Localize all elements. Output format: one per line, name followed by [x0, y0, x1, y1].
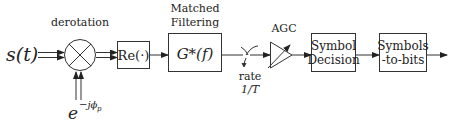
agc-title: AGC [270, 22, 296, 35]
matched-filter-block: G*(f) [169, 34, 222, 72]
phase-input-arrow [76, 72, 81, 100]
svg-text:−jϕ: −jϕ [79, 99, 97, 110]
matched-filter-title-line1: Matched [170, 2, 219, 15]
svg-text:-to-bits: -to-bits [382, 53, 425, 67]
input-signal-label: s(t) [6, 43, 38, 65]
derotation-label: derotation [51, 16, 109, 29]
complex-mixer-output-arrow [96, 53, 117, 58]
sampling-rate-label-line2: 1/T [241, 83, 261, 96]
svg-text:Symbols: Symbols [377, 39, 428, 53]
symbols-to-bits-block: Symbols -to-bits [377, 34, 428, 72]
svg-text:p: p [97, 105, 102, 113]
receiver-block-diagram: s(t) derotation e −jϕ p Re(·) Matched Fi… [0, 0, 461, 125]
svg-text:Symbol: Symbol [311, 39, 356, 53]
svg-text:e: e [68, 103, 78, 123]
svg-text:Decision: Decision [307, 53, 360, 67]
sampling-rate-label-line1: rate [239, 70, 262, 83]
agc-amplifier-icon [268, 42, 292, 68]
real-part-label: Re(·) [118, 48, 150, 63]
matched-filter-label: G*(f) [177, 45, 214, 63]
complex-input-arrow [38, 53, 64, 58]
multiplier-icon [65, 40, 96, 71]
symbol-decision-block: Symbol Decision [307, 34, 360, 72]
real-part-block: Re(·) [118, 42, 150, 69]
matched-filter-title-line2: Filtering [171, 16, 220, 29]
phase-term-label: e −jϕ p [68, 99, 102, 123]
sampler-switch-icon [241, 46, 258, 67]
